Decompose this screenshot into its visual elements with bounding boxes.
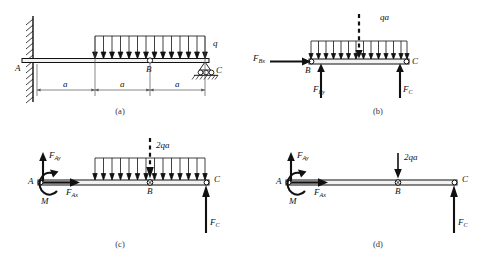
label-force-c: FC <box>458 218 468 227</box>
label-force-c: FC <box>210 218 220 227</box>
label-point-c: C <box>216 66 222 75</box>
force-c-arrow <box>202 185 210 233</box>
label-point-a: A <box>15 64 21 73</box>
statics-figure: A B C q a a a (a) <box>0 0 496 267</box>
label-load-q: q <box>213 39 218 48</box>
caption-panel-d: (d) <box>358 239 398 249</box>
caption-panel-b: (b) <box>358 106 398 116</box>
panel-b: B C qa FBx FBy FC (b) <box>248 0 496 134</box>
beam-ac <box>22 59 209 63</box>
panel-d: A B C 2qa FAy FAx M FC (d) <box>248 133 496 267</box>
resultant-force-2qa <box>394 153 402 179</box>
label-moment-m: M <box>289 197 297 206</box>
internal-hinge-b <box>147 180 153 186</box>
internal-hinge-b <box>395 180 401 186</box>
panel-a: A B C q a a a (a) <box>0 0 248 134</box>
label-resultant-2qa: 2qa <box>156 141 170 150</box>
label-point-c: C <box>412 57 418 66</box>
label-point-a: A <box>28 177 34 186</box>
label-point-a: A <box>276 177 282 186</box>
label-point-b: B <box>305 66 311 75</box>
label-force-bx: FBx <box>253 54 265 63</box>
force-c-arrow <box>450 185 458 233</box>
label-dim-2: a <box>120 80 125 89</box>
label-force-ax: FAx <box>66 188 78 197</box>
label-dim-1: a <box>63 80 68 89</box>
label-point-b: B <box>147 187 153 196</box>
resultant-force-qa <box>355 14 362 59</box>
label-dim-3: a <box>175 80 180 89</box>
beam-bc <box>309 59 409 64</box>
label-point-b: B <box>395 187 401 196</box>
caption-panel-a: (a) <box>100 106 140 116</box>
label-resultant-qa: qa <box>380 13 389 22</box>
label-force-ay: FAy <box>297 151 309 160</box>
force-ax-arrow <box>43 178 80 187</box>
label-force-ay: FAy <box>49 151 61 160</box>
panel-c: A B C 2qa FAy FAx M FC (c) <box>0 133 248 267</box>
label-moment-m: M <box>41 197 49 206</box>
label-resultant-2qa: 2qa <box>404 153 418 162</box>
label-force-by: FBy <box>313 85 325 94</box>
label-point-b: B <box>146 65 152 74</box>
label-point-c: C <box>214 175 220 184</box>
force-ax-arrow <box>291 178 328 187</box>
internal-hinge-b <box>147 58 152 63</box>
label-force-ax: FAx <box>314 188 326 197</box>
caption-panel-c: (c) <box>100 239 140 249</box>
label-force-c: FC <box>403 85 413 94</box>
distributed-load-q <box>93 36 208 59</box>
label-point-c: C <box>462 175 468 184</box>
